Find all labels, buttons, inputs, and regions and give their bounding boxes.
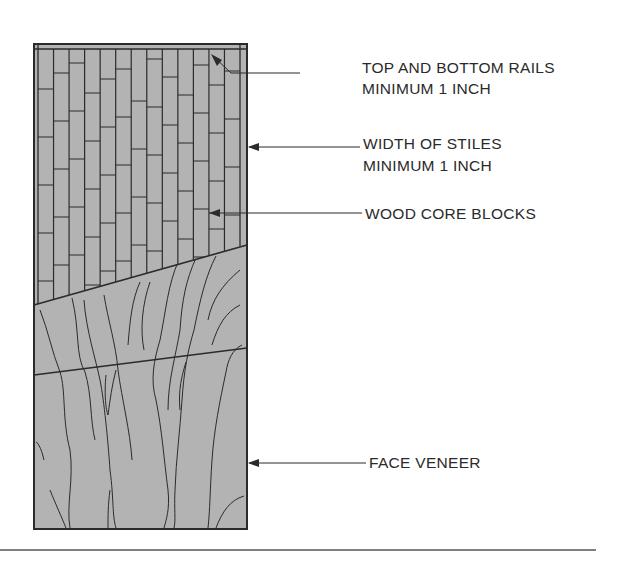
- face-veneer-leader: [248, 459, 366, 467]
- arrowhead-icon: [248, 143, 259, 151]
- rails-label-line1: TOP AND BOTTOM RAILS: [362, 59, 555, 76]
- stiles-label-line2: MINIMUM 1 INCH: [363, 157, 492, 174]
- door-panel: [34, 44, 247, 529]
- door-construction-diagram: TOP AND BOTTOM RAILS MINIMUM 1 INCH WIDT…: [0, 0, 618, 561]
- arrowhead-icon: [248, 459, 259, 467]
- face-veneer-label: FACE VENEER: [369, 454, 481, 471]
- rails-label-line2: MINIMUM 1 INCH: [362, 80, 491, 97]
- core-blocks-label: WOOD CORE BLOCKS: [365, 205, 536, 222]
- stiles-label-line1: WIDTH OF STILES: [363, 135, 502, 152]
- stiles-leader: [248, 143, 360, 151]
